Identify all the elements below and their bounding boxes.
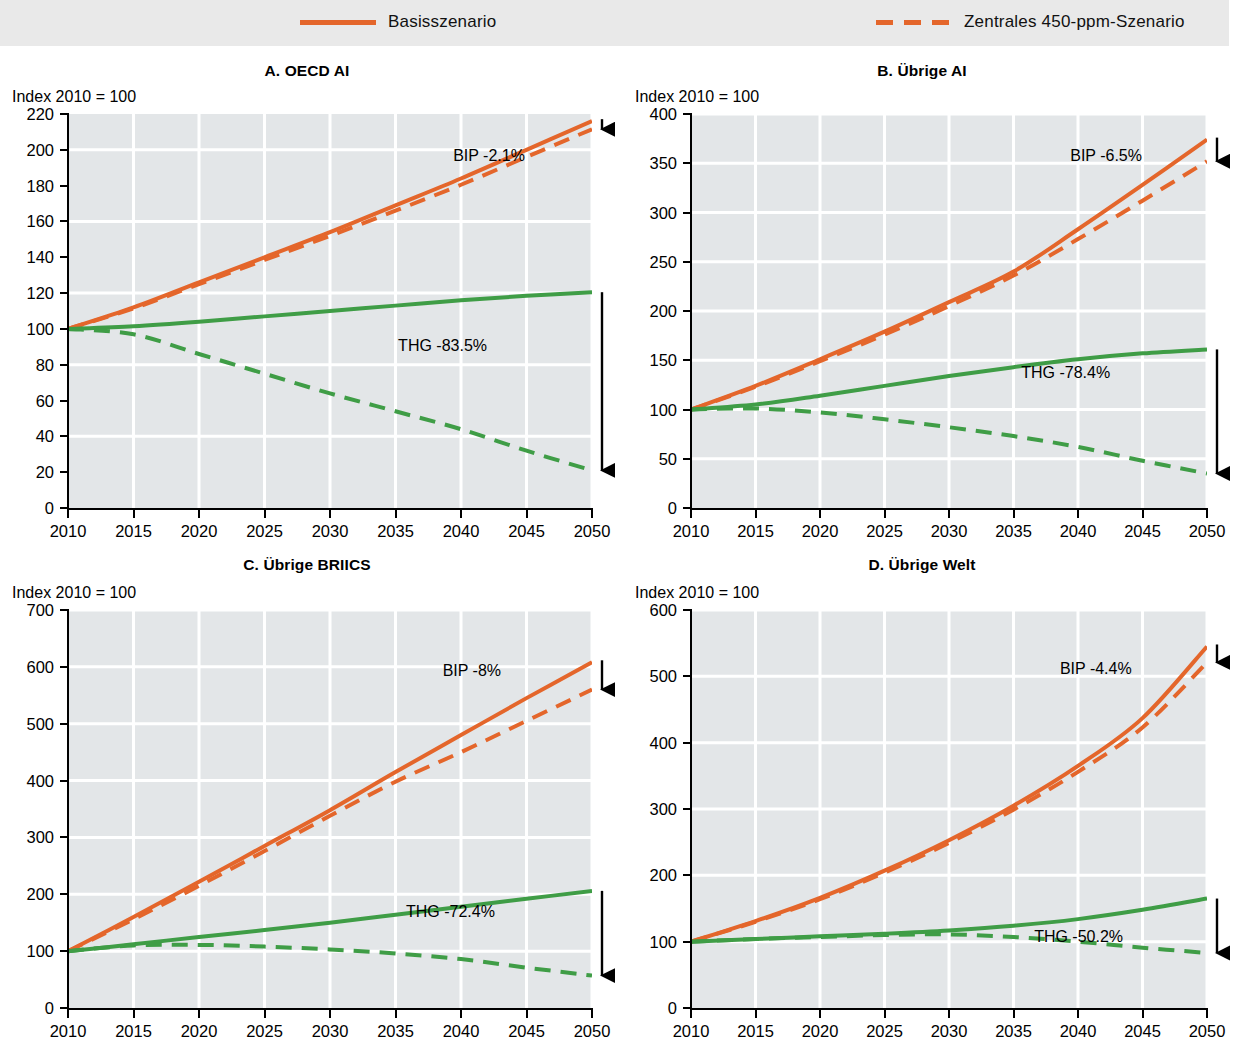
x-tick-label: 2025	[866, 522, 903, 541]
x-tick-label: 2050	[574, 522, 611, 541]
x-tick-label: 2035	[377, 522, 414, 541]
x-tick-label: 2045	[508, 1022, 545, 1041]
y-tick-a	[60, 328, 68, 330]
annotation-thg-b: THG -78.4%	[1021, 364, 1110, 382]
y-tick-a	[60, 364, 68, 366]
x-tick-c	[133, 1010, 135, 1018]
y-tick-c	[60, 950, 68, 952]
y-tick-b	[683, 507, 691, 509]
x-tick-a	[526, 510, 528, 518]
annotation-bip-c: BIP -8%	[443, 662, 501, 680]
x-tick-a	[329, 510, 331, 518]
x-tick-b	[1077, 510, 1079, 518]
x-tick-a	[264, 510, 266, 518]
x-tick-b	[1142, 510, 1144, 518]
x-tick-label: 2030	[931, 1022, 968, 1041]
x-tick-label: 2015	[737, 1022, 774, 1041]
x-tick-label: 2015	[115, 1022, 152, 1041]
x-tick-a	[395, 510, 397, 518]
x-tick-b	[884, 510, 886, 518]
x-tick-label: 2020	[802, 522, 839, 541]
y-tick-label: 100	[0, 942, 54, 961]
y-axis-c	[67, 609, 69, 1009]
panel-c-title: C. Übrige BRIICS	[0, 556, 614, 574]
panel-d-title: D. Übrige Welt	[615, 556, 1229, 574]
x-tick-d	[948, 1010, 950, 1018]
x-tick-label: 2035	[995, 522, 1032, 541]
x-tick-label: 2045	[1124, 1022, 1161, 1041]
panel-b-title: B. Übrige AI	[615, 62, 1229, 80]
x-tick-c	[395, 1010, 397, 1018]
y-tick-label: 200	[0, 140, 54, 159]
y-tick-label: 40	[0, 427, 54, 446]
x-tick-label: 2020	[802, 1022, 839, 1041]
y-tick-label: 160	[0, 212, 54, 231]
y-tick-d	[683, 808, 691, 810]
legend: Basisszenario Zentrales 450-ppm-Szenario	[0, 0, 1229, 46]
x-tick-a	[591, 510, 593, 518]
x-tick-b	[948, 510, 950, 518]
annotation-bip-a: BIP -2.1%	[453, 147, 525, 165]
y-tick-label: 120	[0, 284, 54, 303]
panel-a-title: A. OECD AI	[0, 62, 614, 80]
y-tick-label: 20	[0, 463, 54, 482]
x-tick-label: 2025	[246, 1022, 283, 1041]
y-tick-label: 180	[0, 176, 54, 195]
x-tick-label: 2010	[673, 1022, 710, 1041]
y-tick-label: 300	[615, 800, 677, 819]
y-tick-label: 400	[615, 733, 677, 752]
y-tick-c	[60, 609, 68, 611]
x-tick-c	[198, 1010, 200, 1018]
x-tick-label: 2010	[50, 522, 87, 541]
x-tick-label: 2030	[931, 522, 968, 541]
y-tick-b	[683, 212, 691, 214]
y-tick-label: 200	[615, 866, 677, 885]
y-tick-c	[60, 780, 68, 782]
x-tick-label: 2015	[115, 522, 152, 541]
line-solid-icon	[300, 20, 376, 25]
x-tick-label: 2045	[1124, 522, 1161, 541]
x-tick-label: 2025	[866, 1022, 903, 1041]
y-tick-d	[683, 609, 691, 611]
y-tick-label: 0	[615, 499, 677, 518]
x-tick-a	[460, 510, 462, 518]
y-tick-b	[683, 409, 691, 411]
x-tick-d	[1077, 1010, 1079, 1018]
annotation-thg-d: THG -50.2%	[1034, 928, 1123, 946]
x-tick-b	[819, 510, 821, 518]
y-tick-a	[60, 113, 68, 115]
y-tick-label: 150	[615, 351, 677, 370]
x-tick-label: 2045	[508, 522, 545, 541]
plot-area-b	[691, 114, 1207, 508]
x-tick-label: 2025	[246, 522, 283, 541]
x-tick-d	[1013, 1010, 1015, 1018]
x-tick-label: 2050	[574, 1022, 611, 1041]
y-tick-a	[60, 220, 68, 222]
y-tick-label: 500	[0, 714, 54, 733]
annotation-bip-b: BIP -6.5%	[1070, 147, 1142, 165]
y-tick-b	[683, 162, 691, 164]
y-tick-label: 400	[615, 105, 677, 124]
plot-area-a	[68, 114, 592, 508]
y-tick-d	[683, 874, 691, 876]
legend-label-basisszenario: Basisszenario	[388, 12, 496, 32]
x-tick-label: 2030	[312, 522, 349, 541]
y-tick-a	[60, 507, 68, 509]
x-tick-label: 2030	[312, 1022, 349, 1041]
y-tick-d	[683, 941, 691, 943]
y-tick-label: 600	[0, 657, 54, 676]
x-tick-label: 2010	[50, 1022, 87, 1041]
y-tick-b	[683, 458, 691, 460]
panel-d-index-label: Index 2010 = 100	[635, 584, 759, 602]
y-tick-label: 0	[0, 999, 54, 1018]
x-tick-label: 2035	[377, 1022, 414, 1041]
y-tick-label: 200	[615, 302, 677, 321]
y-tick-d	[683, 675, 691, 677]
y-tick-label: 100	[615, 400, 677, 419]
x-tick-b	[690, 510, 692, 518]
legend-item-450ppm: Zentrales 450-ppm-Szenario	[876, 12, 1185, 32]
x-tick-b	[1013, 510, 1015, 518]
x-tick-c	[264, 1010, 266, 1018]
y-tick-d	[683, 742, 691, 744]
x-tick-d	[690, 1010, 692, 1018]
